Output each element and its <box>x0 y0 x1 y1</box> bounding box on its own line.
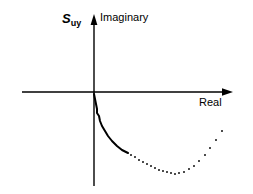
locus-dot <box>154 167 156 169</box>
real-axis-label: Real <box>199 97 222 108</box>
locus-dot <box>170 172 172 174</box>
locus-dot <box>188 168 190 170</box>
locus-dot <box>150 165 152 167</box>
quantity-symbol-subscript: uy <box>71 18 82 28</box>
locus-dot <box>204 154 206 156</box>
locus-dot <box>158 169 160 171</box>
locus-dot <box>183 171 185 173</box>
quantity-symbol-letter: S <box>62 11 71 26</box>
locus-solid-curve <box>94 94 128 153</box>
real-axis-arrowhead <box>222 88 233 96</box>
imaginary-axis-arrowhead <box>91 14 98 25</box>
locus-dotted-curve <box>130 130 223 175</box>
quantity-symbol-label: Suy <box>62 12 81 28</box>
nyquist-plot-figure: Suy Imaginary Real <box>0 0 253 194</box>
locus-dot <box>166 171 168 173</box>
locus-dot <box>130 154 132 156</box>
locus-dot <box>215 139 217 141</box>
locus-dot <box>221 130 223 132</box>
locus-dot <box>142 161 144 163</box>
locus-dot <box>193 165 195 167</box>
locus-dot <box>162 170 164 172</box>
imaginary-axis-label: Imaginary <box>100 12 148 23</box>
locus-dot <box>138 159 140 161</box>
locus-dot <box>134 156 136 158</box>
locus-dot <box>178 172 180 174</box>
locus-dot <box>209 147 211 149</box>
locus-dot <box>174 173 176 175</box>
locus-dot <box>198 160 200 162</box>
locus-dot <box>146 163 148 165</box>
